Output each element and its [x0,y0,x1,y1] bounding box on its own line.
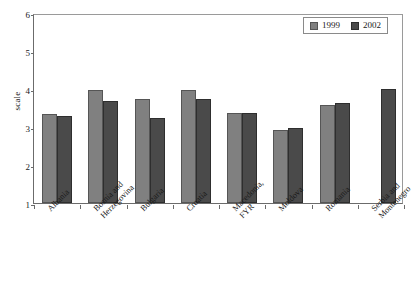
legend-item-1999: 1999 [310,21,340,30]
bar-group [320,15,350,203]
legend-item-2002: 2002 [351,21,381,30]
y-tick-label-6: 6 [12,11,30,20]
y-tick-label-1: 1 [12,201,30,210]
bar-group [88,15,118,203]
bar-2002 [196,99,211,204]
bar-group [181,15,211,203]
legend-swatch-icon-1999 [310,22,318,30]
bar-group [227,15,257,203]
y-tick-mark-3 [31,129,34,130]
bar-1999 [135,99,150,204]
y-tick-label-5: 5 [12,49,30,58]
legend-label-2002: 2002 [363,21,381,30]
y-tick-label-2: 2 [12,163,30,172]
bar-1999 [181,90,196,203]
plot-area: 123456 [33,14,403,204]
chart-legend: 1999 2002 [303,17,388,34]
legend-label-1999: 1999 [322,21,340,30]
legend-swatch-icon-2002 [351,22,359,30]
bar-1999 [320,105,335,203]
bar-1999 [273,130,288,203]
y-tick-mark-6 [31,15,34,16]
bars-layer [34,15,402,203]
y-axis-label: scale [12,71,22,131]
y-tick-label-3: 3 [12,125,30,134]
bar-chart: scale 123456 AlbaniaBosnia andHerzegovin… [0,0,416,286]
bar-1999 [42,114,57,203]
bar-1999 [227,113,242,203]
x-axis-labels: AlbaniaBosnia andHerzegovinaBulgariaCroa… [33,206,413,286]
y-tick-mark-2 [31,167,34,168]
y-tick-mark-4 [31,91,34,92]
bar-group [135,15,165,203]
bar-group [42,15,72,203]
bar-1999 [88,90,103,203]
y-tick-mark-5 [31,53,34,54]
bar-group [273,15,303,203]
y-tick-label-4: 4 [12,87,30,96]
bar-group [366,15,396,203]
